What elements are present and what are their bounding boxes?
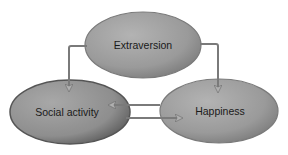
node-extraversion: Extraversion bbox=[85, 12, 201, 78]
node-label-extraversion: Extraversion bbox=[114, 39, 173, 51]
diagram-canvas: Extraversion Social activity Happiness bbox=[0, 0, 288, 155]
node-label-happiness: Happiness bbox=[195, 105, 245, 117]
node-label-social-activity: Social activity bbox=[35, 106, 99, 118]
